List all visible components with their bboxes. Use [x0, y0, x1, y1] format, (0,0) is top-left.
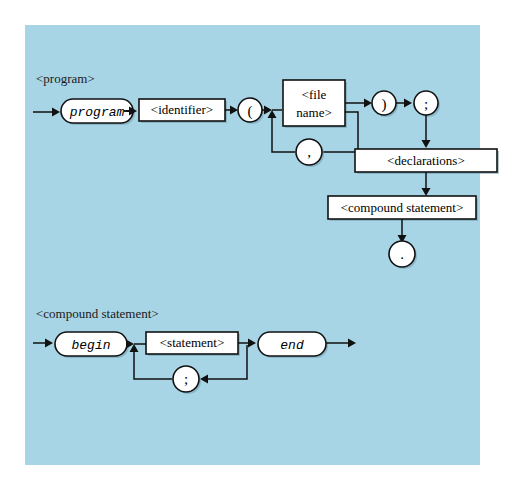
- node-text-file-name-line1: <file: [302, 87, 327, 102]
- wire-entry-program: [33, 108, 60, 117]
- node-text-program-keyword: program: [69, 105, 125, 120]
- node-text-begin-keyword: begin: [71, 338, 110, 353]
- wire-declarations-to-compound: [422, 172, 431, 196]
- node-text-period: .: [400, 246, 404, 262]
- node-text-open-paren: (: [248, 103, 253, 120]
- figure-page: <program> program <identifier>: [0, 0, 517, 493]
- node-text-file-name-line2: name>: [296, 105, 331, 120]
- production-label-program: <program>: [36, 71, 95, 86]
- node-semicolon: ;: [414, 91, 440, 117]
- wire-exit-compound: [326, 339, 356, 348]
- node-text-end-keyword: end: [280, 338, 304, 353]
- node-program-keyword: program: [61, 99, 135, 125]
- node-text-declarations: <declarations>: [387, 153, 464, 168]
- node-text-comma: ,: [307, 144, 311, 160]
- node-statement: <statement>: [146, 332, 240, 356]
- node-identifier: <identifier>: [139, 99, 227, 123]
- node-declarations: <declarations>: [355, 149, 499, 174]
- wire-close-paren-to-semicolon: [396, 99, 412, 108]
- wire-entry-compound: [33, 339, 53, 348]
- wire-semicolon-to-declarations: [422, 115, 431, 148]
- wire-compound-to-period: [398, 219, 407, 243]
- node-period: .: [389, 241, 417, 269]
- wire-filename-to-close-paren: [345, 99, 372, 108]
- node-text-identifier: <identifier>: [151, 102, 213, 117]
- node-text-statement-separator: ;: [184, 371, 188, 387]
- production-label-compound-statement: <compound statement>: [36, 306, 159, 321]
- node-file-name: <file name>: [283, 80, 347, 128]
- node-end-keyword: end: [258, 332, 328, 358]
- wire-begin-to-statement: [126, 340, 146, 353]
- node-compound-statement-ref: <compound statement>: [328, 196, 478, 221]
- node-open-paren: (: [238, 98, 264, 124]
- node-text-close-paren: ): [382, 96, 387, 113]
- node-text-semicolon: ;: [424, 96, 428, 112]
- node-text-statement: <statement>: [160, 335, 224, 350]
- node-comma: ,: [296, 139, 324, 167]
- node-text-compound-statement-ref: <compound statement>: [341, 200, 464, 215]
- node-begin-keyword: begin: [55, 332, 129, 358]
- node-close-paren: ): [372, 91, 398, 117]
- syntax-diagram: <program> program <identifier>: [0, 0, 517, 493]
- node-statement-separator: ;: [173, 366, 201, 394]
